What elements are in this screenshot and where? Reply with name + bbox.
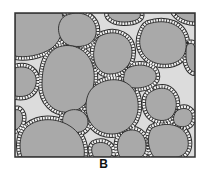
panel-label: B <box>0 157 207 171</box>
grain-diagram-svg <box>0 0 207 177</box>
thin-section-diagram: B <box>0 0 207 177</box>
section-field <box>15 13 195 157</box>
